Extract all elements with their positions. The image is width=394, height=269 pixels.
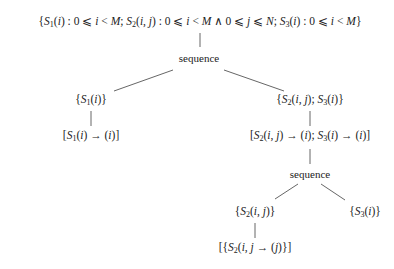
edge-seq2-filter-s2	[275, 184, 298, 199]
edge-seq1-filter-s1	[114, 70, 173, 91]
filter-node-s2: {S2(i, j)}	[235, 204, 276, 222]
sequence-node-2: sequence	[290, 167, 330, 181]
filter-node-s2-s3: {S2(i, j); S3(i)}	[276, 92, 343, 110]
band-node-s2-s3: [S2(i, j) → (i); S3(i) → (i)]	[250, 128, 370, 146]
filter-node-s3: {S3(i)}	[349, 204, 381, 222]
sequence-node-1: sequence	[179, 51, 219, 65]
filter-node-s1: {S1(i)}	[75, 92, 107, 110]
band-node-s2: [{S2(i, j → (j)}]	[219, 240, 292, 258]
root-domain-node: {S1(i) : 0 ⩽ i < M; S2(i, j) : 0 ⩽ i < M…	[39, 14, 362, 32]
edge-seq2-filter-s3	[321, 184, 345, 200]
edge-seq1-filter-s2s3	[224, 70, 284, 91]
band-node-s1: [S1(i) → (i)]	[63, 128, 119, 146]
